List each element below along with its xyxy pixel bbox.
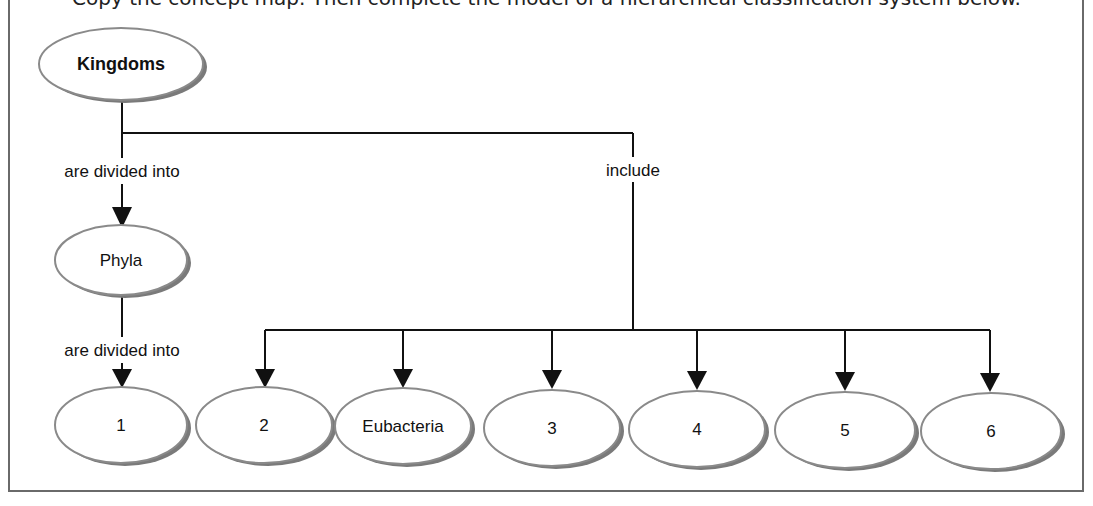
edge-label-are-divided-into: are divided into <box>64 341 179 360</box>
svg-text:Phyla: Phyla <box>100 251 143 270</box>
arrow-icon <box>687 371 707 390</box>
svg-text:Kingdoms: Kingdoms <box>77 54 165 74</box>
node-eubacteria: Eubacteria <box>335 388 475 467</box>
arrow-icon <box>980 373 1000 392</box>
arrow-icon <box>112 369 132 388</box>
node-2: 2 <box>196 387 336 466</box>
node-phyla: Phyla <box>55 225 191 298</box>
arrowheads <box>112 207 1000 392</box>
svg-text:Eubacteria: Eubacteria <box>362 417 444 436</box>
arrow-icon <box>835 372 855 391</box>
concept-map: are divided into include are divided int… <box>0 0 1093 506</box>
arrow-icon <box>393 369 413 388</box>
arrow-icon <box>255 369 275 388</box>
edge-label-include: include <box>606 161 660 180</box>
connectors <box>122 102 990 376</box>
svg-text:4: 4 <box>692 420 701 439</box>
edge-label-are-divided-into: are divided into <box>64 162 179 181</box>
svg-text:6: 6 <box>986 422 995 441</box>
node-kingdoms: Kingdoms <box>39 28 207 103</box>
arrow-icon <box>542 370 562 389</box>
node-3: 3 <box>484 390 624 469</box>
svg-text:2: 2 <box>259 416 268 435</box>
svg-text:5: 5 <box>840 421 849 440</box>
node-5: 5 <box>775 392 919 471</box>
svg-text:1: 1 <box>116 416 125 435</box>
svg-text:3: 3 <box>547 419 556 438</box>
node-1: 1 <box>55 387 191 466</box>
node-6: 6 <box>921 393 1065 472</box>
node-4: 4 <box>629 391 769 470</box>
